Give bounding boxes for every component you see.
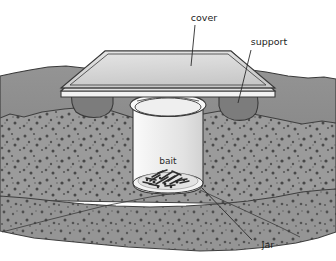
cover-plate: [61, 51, 275, 97]
cover-label: cover: [191, 12, 218, 23]
support-label: support: [251, 36, 288, 47]
jar-label: jar: [261, 239, 274, 250]
pitfall-trap-diagram: bait cover support jar: [0, 0, 336, 261]
bait-label: bait: [159, 156, 177, 166]
diagram-canvas: bait cover support jar: [0, 0, 336, 261]
